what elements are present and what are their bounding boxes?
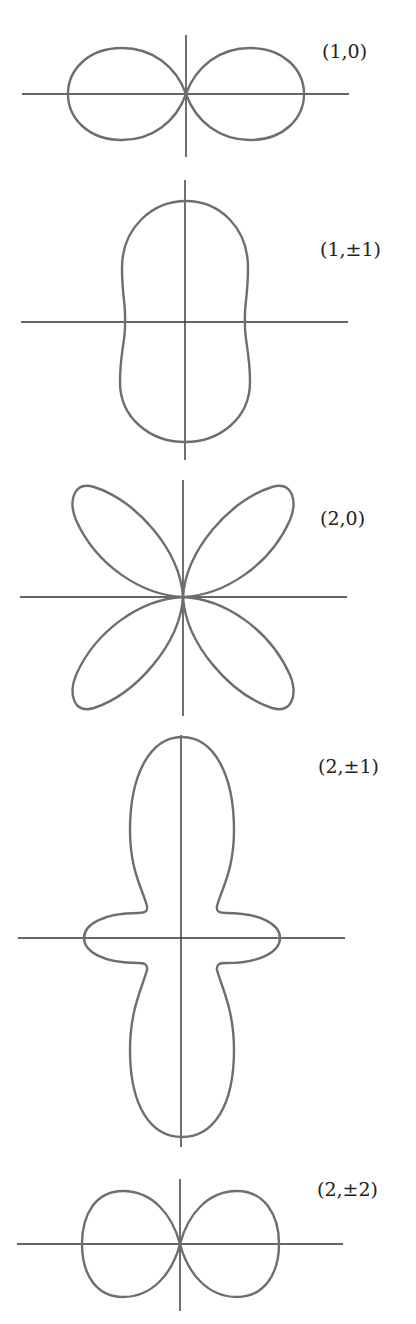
plots-canvas: [0, 0, 416, 1324]
plot-1-pm1: [21, 180, 348, 460]
plot-2-0: [20, 480, 347, 716]
dumbbell-curve: [84, 737, 280, 1137]
label-2-0: (2,0): [320, 507, 365, 529]
label-2-pm1: (2,±1): [318, 755, 379, 777]
plot-2-pm2: [17, 1179, 343, 1311]
label-1-pm1: (1,±1): [320, 238, 381, 260]
plot-1-0: [22, 35, 349, 157]
plot-2-pm1: [18, 735, 345, 1147]
label-2-pm2: (2,±2): [317, 1178, 378, 1200]
petal-lower-left: [73, 597, 183, 709]
petal-upper-right: [183, 486, 293, 597]
petal-lower-right: [183, 597, 293, 709]
label-1-0: (1,0): [322, 40, 367, 62]
petal-upper-left: [73, 486, 183, 597]
spherical-harmonics-diagram: (1,0) (1,±1) (2,0) (2,±1) (2,±2): [0, 0, 416, 1324]
